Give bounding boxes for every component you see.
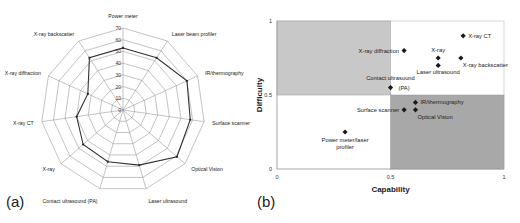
radar-spoke	[123, 110, 185, 164]
x-tick-label: 0.5	[387, 174, 395, 180]
radar-data-point	[76, 116, 78, 118]
figure: Power meterLaser beam profilerIR/thermog…	[0, 0, 520, 223]
radar-tick-label: 30	[115, 72, 121, 78]
radar-chart: Power meterLaser beam profilerIR/thermog…	[5, 13, 251, 204]
radar-series-line	[77, 48, 191, 165]
data-point-label: Laser ultrasound	[417, 69, 460, 75]
y-tick-label: 0	[269, 166, 272, 172]
y-tick-label: 0.5	[264, 92, 272, 98]
radar-axis-label: Laser ultrasound	[148, 198, 187, 204]
radar-data-point	[107, 161, 109, 163]
radar-spoke	[61, 110, 123, 164]
radar-tick-label: 20	[115, 84, 121, 90]
data-point-label: Power meter/laser	[322, 137, 369, 143]
y-axis-title: Difficulty	[255, 77, 264, 112]
radar-data-point	[186, 80, 188, 82]
radar-data-point	[155, 57, 157, 59]
radar-axis-label: X-ray CT	[13, 120, 35, 126]
data-point-label: Surface scanner	[357, 107, 399, 113]
scatter-chart: 00.5100.51CapabilityDifficultyX-ray CTX-…	[255, 18, 508, 194]
radar-data-point	[189, 119, 191, 121]
data-point-label: X-ray backscatter	[463, 62, 508, 68]
data-point-label: X-ray CT	[468, 33, 492, 39]
data-point-label: profiler	[336, 144, 354, 150]
radar-axis-label: Surface scanner	[212, 120, 250, 126]
radar-tick-label: 60	[115, 37, 121, 43]
radar-tick-label: 70	[115, 25, 121, 31]
radar-tick-label: 40	[115, 60, 121, 66]
quadrant-shade	[277, 21, 391, 95]
radar-tick-label: 0	[118, 107, 121, 113]
radar-tick-label: 10	[115, 95, 121, 101]
radar-data-point	[82, 143, 84, 145]
radar-axis-label: Laser beam profiler	[172, 31, 217, 37]
panel-label-b: (b)	[257, 193, 275, 210]
data-point-label: X-ray	[431, 47, 445, 53]
x-tick-label: 0	[275, 174, 278, 180]
x-tick-label: 1	[502, 174, 505, 180]
data-point-label: Optical Vision	[417, 114, 452, 120]
radar-axis-label: X-ray	[42, 166, 55, 172]
panel-label-a: (a)	[6, 193, 24, 210]
radar-data-point	[122, 47, 124, 49]
x-axis-title: Capability	[371, 185, 410, 194]
data-point-label: Contact ultrasound	[366, 75, 415, 81]
radar-axis-label: IR/thermography	[205, 70, 244, 76]
radar-data-point	[87, 93, 89, 95]
quadrant-shade	[391, 95, 505, 169]
radar-axis-label: Contact ultrasound (PA)	[43, 198, 98, 204]
radar-axis-label: Power meter	[108, 13, 138, 19]
data-point-label: (PA)	[399, 85, 410, 91]
radar-data-point	[138, 164, 140, 166]
data-point-label: IR/thermography	[420, 99, 463, 105]
y-tick-label: 1	[269, 18, 272, 24]
radar-data-point	[176, 156, 178, 158]
radar-axis-label: Optical Vision	[191, 166, 223, 172]
radar-data-point	[88, 57, 90, 59]
data-point-label: X-ray diffraction	[359, 48, 400, 54]
radar-axis-label: X-ray diffraction	[5, 70, 41, 76]
radar-axis-label: X-ray backscatter	[34, 31, 75, 37]
